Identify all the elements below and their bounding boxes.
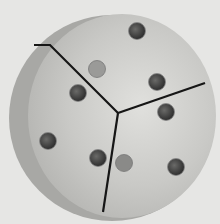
chuck-photo — [0, 0, 220, 224]
disc-face — [28, 14, 216, 218]
chuck-illustration — [0, 0, 220, 224]
